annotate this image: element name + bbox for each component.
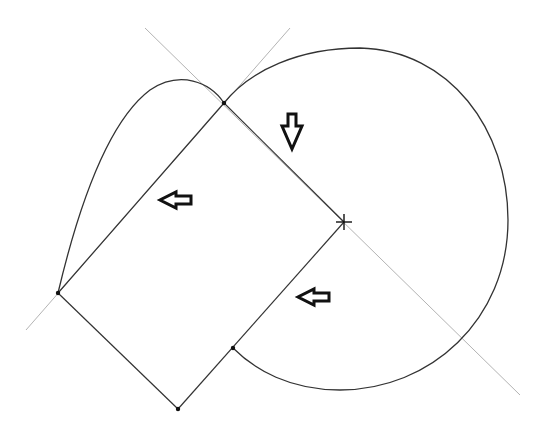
edge-left-to-bottom [58, 293, 178, 409]
arrow-left-icon [298, 289, 329, 305]
circle-arc [224, 48, 508, 390]
edge-bottom-to-center [178, 222, 344, 409]
diagram-canvas [0, 0, 548, 438]
construction-line-diagonal-down [145, 28, 520, 395]
vertex-dot-bottom [176, 407, 180, 411]
vertex-dot-top [222, 101, 226, 105]
teardrop-curve [58, 80, 224, 293]
vertex-dot-inner [231, 346, 235, 350]
arrow-left-icon [160, 192, 191, 208]
arrow-down-icon [282, 114, 302, 149]
edge-top-to-center [224, 103, 344, 222]
edge-top-to-left [58, 103, 224, 293]
vertex-dot-left [56, 291, 60, 295]
geometry-diagram [0, 0, 548, 438]
